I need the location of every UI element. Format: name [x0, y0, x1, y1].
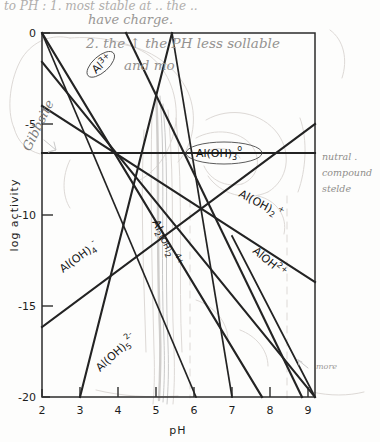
- x-tick-7: 7: [229, 404, 236, 417]
- y-tick--15: -15: [18, 300, 36, 313]
- x-tick-8: 8: [267, 404, 274, 417]
- svg-text:Al(OH)4-: Al(OH)4-: [55, 237, 101, 278]
- note-right-line-1: nutral .: [322, 151, 357, 162]
- note-bottom-right-more: more: [316, 362, 337, 371]
- note-right-line-3: stelde: [322, 183, 351, 194]
- line-aloh2plus: [42, 62, 315, 397]
- svg-text:Al(OH)52-: Al(OH)52-: [91, 329, 140, 375]
- label-al3plus: Al3+: [83, 47, 119, 82]
- label-aloh5-dianion: Al(OH)52-: [91, 329, 140, 375]
- svg-text:Al(OH)2+: Al(OH)2+: [236, 185, 287, 223]
- svg-text:Al3+: Al3+: [89, 51, 115, 76]
- y-tick--20: -20: [18, 391, 36, 404]
- svg-text:Al(OH)3o: Al(OH)3o: [196, 144, 242, 162]
- x-tick-3: 3: [77, 404, 84, 417]
- x-axis: 2 3 4 5 6 7 8 9 pH: [39, 387, 312, 437]
- label-aloh4-anion: Al(OH)4-: [55, 237, 101, 278]
- x-tick-9: 9: [305, 404, 312, 417]
- x-tick-2: 2: [39, 404, 46, 417]
- species-labels: Al3+ Gibbsite Al(OH)3o Al(OH)2+: [19, 47, 290, 376]
- figure-page: 0 -5 -10 -15 -20 log activity 2 3 4 5 6 …: [0, 0, 380, 442]
- line-aloh5-fall: [172, 33, 232, 397]
- label-aloh2-cation: Al(OH)2+: [236, 185, 287, 223]
- al-speciation-diagram: 0 -5 -10 -15 -20 log activity 2 3 4 5 6 …: [0, 0, 380, 442]
- note-right-line-2: compound: [322, 167, 372, 178]
- x-tick-6: 6: [191, 404, 198, 417]
- x-tick-4: 4: [115, 404, 122, 417]
- y-axis-title: log activity: [8, 179, 21, 252]
- x-tick-5: 5: [153, 404, 160, 417]
- note-point-2-line-2: and mo: [124, 57, 175, 73]
- note-top-have-charge: have charge.: [88, 12, 173, 27]
- y-tick-0: 0: [29, 27, 36, 40]
- x-axis-title: pH: [169, 424, 186, 437]
- y-axis: 0 -5 -10 -15 -20 log activity: [8, 27, 53, 404]
- note-point-2-line-1: 2. the ↑ the PH less sollable: [85, 35, 280, 51]
